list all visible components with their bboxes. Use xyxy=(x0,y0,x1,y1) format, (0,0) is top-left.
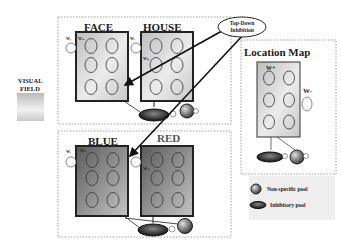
top-down-label-1: Top-Down xyxy=(230,20,255,26)
location-w-minus: W- xyxy=(303,87,313,95)
red-w-plus: W+ xyxy=(143,166,150,171)
visual-field-label-2: FIELD xyxy=(20,85,40,92)
color-nonspecific-pool xyxy=(178,219,193,234)
blue-box xyxy=(76,146,128,216)
diagram-canvas: VISUAL FIELD FACE W+ W- HOUSE W+ W- xyxy=(0,0,341,249)
blue-w-minus: W- xyxy=(66,149,72,154)
color-pools xyxy=(124,216,193,236)
house-w-plus: W+ xyxy=(143,56,150,61)
location-inhibitory-pool xyxy=(257,152,283,162)
face-self-loop xyxy=(66,43,76,53)
legend-nonspecific-label: Non-specific pool xyxy=(267,186,308,192)
legend-inhibitory-icon xyxy=(250,202,266,209)
legend-box xyxy=(249,176,335,220)
visual-field-label-1: VISUAL xyxy=(18,77,43,84)
face-w-plus: W+ xyxy=(78,36,85,41)
legend-inhibitory-label: Inhibitory pool xyxy=(270,202,306,208)
red-box xyxy=(141,146,193,216)
face-box xyxy=(76,32,128,101)
face-pool: FACE W+ W- xyxy=(66,21,128,101)
object-pools xyxy=(124,101,199,121)
house-box xyxy=(141,32,193,101)
red-self-loop xyxy=(131,157,141,167)
house-pool: HOUSE W+ W- xyxy=(130,21,193,101)
legend: Non-specific pool Inhibitory pool xyxy=(249,176,335,220)
red-title: RED xyxy=(157,132,180,144)
top-down-label-2: Inhibition xyxy=(230,27,254,33)
object-nonspecific-pool xyxy=(180,104,194,118)
location-title: Location Map xyxy=(244,46,310,58)
face-w-minus: W- xyxy=(66,36,72,41)
visual-field: VISUAL FIELD xyxy=(17,77,44,121)
blue-pool: BLUE W+ W- xyxy=(66,135,128,216)
location-self-loop xyxy=(302,97,312,111)
location-map: Location Map W+ W- xyxy=(244,46,313,164)
legend-nonspecific-icon xyxy=(251,184,261,194)
house-w-minus: W- xyxy=(130,36,136,41)
house-self-loop xyxy=(131,43,141,53)
blue-self-loop xyxy=(66,157,76,167)
blue-w-plus: W+ xyxy=(80,148,87,153)
location-w-plus: W+ xyxy=(266,65,276,71)
location-nonspecific-pool xyxy=(290,150,304,164)
visual-field-box xyxy=(17,93,44,121)
color-inhibitory-pool xyxy=(138,224,168,236)
